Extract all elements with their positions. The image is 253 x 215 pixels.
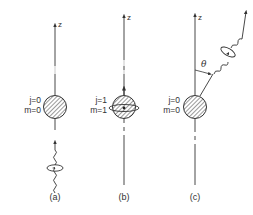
z-axis-label: z [58, 20, 62, 29]
j-label: j=0 [28, 95, 41, 105]
panel-a: z j=0 m=0 (a) [24, 20, 66, 202]
angle-arc [195, 70, 210, 74]
m-label: m=0 [24, 105, 41, 115]
panel-c: z θ j=0 m=0 (c) [163, 12, 246, 202]
photon-wavy-icon [47, 142, 63, 193]
j-label: j=1 [94, 95, 107, 105]
m-label: m=1 [90, 105, 107, 115]
panel-b: z j=1 m=1 (b) [90, 13, 139, 202]
caption-c: (c) [190, 192, 201, 202]
j-label: j=0 [167, 95, 180, 105]
z-axis-label: z [198, 13, 202, 22]
emission-direction-line [200, 74, 213, 96]
m-label: m=0 [163, 105, 180, 115]
caption-a: (a) [50, 192, 61, 202]
atom-sphere [184, 96, 207, 119]
theta-label: θ [201, 59, 207, 69]
angular-momentum-diagram: z j=0 m=0 (a) z j=1 m=1 (b) z [0, 0, 253, 215]
emitted-photon-wavy-icon [214, 12, 246, 74]
caption-b: (b) [119, 192, 130, 202]
atom-sphere [44, 96, 67, 119]
z-axis-label: z [127, 13, 131, 22]
